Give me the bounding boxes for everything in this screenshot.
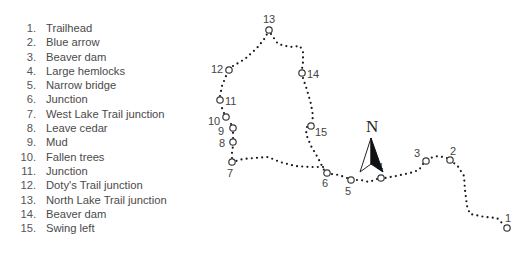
waypoint-label-1: 1: [505, 212, 511, 224]
waypoint-marker-9[interactable]: [230, 125, 236, 131]
waypoint-marker-14[interactable]: [299, 70, 305, 76]
trail-segment-7-8: [232, 146, 233, 158]
waypoint-marker-6[interactable]: [324, 170, 330, 176]
waypoint-label-15: 15: [315, 126, 327, 138]
trail-segment-2-3: [430, 156, 447, 158]
north-arrow-left-half-icon: [360, 138, 371, 172]
trail-segment-10-11: [221, 104, 224, 113]
waypoint-label-5: 5: [345, 185, 351, 197]
waypoint-marker-4[interactable]: [378, 175, 384, 181]
waypoint-marker-12[interactable]: [226, 67, 232, 73]
waypoint-label-7: 7: [227, 167, 233, 179]
waypoint-label-10: 10: [208, 115, 220, 127]
north-arrow: N: [360, 117, 383, 172]
trail-path: [220, 34, 505, 226]
waypoint-marker-11[interactable]: [217, 97, 223, 103]
waypoint-label-8: 8: [219, 137, 225, 149]
waypoint-marker-7[interactable]: [229, 159, 235, 165]
trail-segment-5-6: [331, 174, 347, 178]
north-label: N: [366, 117, 378, 136]
trail-segment-11-12: [220, 74, 228, 96]
waypoint-marker-15[interactable]: [308, 123, 314, 129]
waypoint-label-12: 12: [211, 63, 223, 75]
waypoint-marker-1[interactable]: [504, 225, 510, 231]
waypoint-marker-5[interactable]: [348, 177, 354, 183]
trail-segment-4-5: [355, 179, 377, 182]
waypoint-label-3: 3: [414, 147, 420, 159]
trail-segment-9-10: [228, 120, 231, 124]
waypoint-label-2: 2: [450, 145, 456, 157]
waypoint-marker-8[interactable]: [230, 139, 236, 145]
trail-map: 1 2 3 4 5 6 7 8 9 10 11 12 13 14 15 N: [0, 0, 514, 262]
waypoint-label-14: 14: [307, 68, 319, 80]
north-arrow-right-half-icon: [371, 138, 383, 172]
trail-segment-3-4: [385, 164, 423, 178]
trail-segment-12-13: [233, 34, 267, 66]
trail-segment-1-2: [452, 162, 505, 226]
waypoint-label-11: 11: [225, 95, 236, 107]
trail-segment-13-14: [271, 34, 303, 69]
waypoint-label-6: 6: [322, 177, 328, 189]
waypoint-marker-2[interactable]: [447, 157, 453, 163]
waypoint-marker-3[interactable]: [423, 158, 429, 164]
waypoint-label-13: 13: [263, 13, 275, 25]
waypoint-marker-10[interactable]: [223, 114, 229, 120]
waypoint-marker-13[interactable]: [266, 27, 272, 33]
trail-segment-14-15: [303, 78, 313, 122]
trail-segment-6-7: [236, 157, 323, 167]
